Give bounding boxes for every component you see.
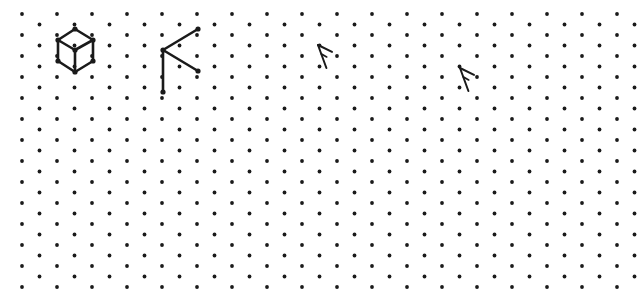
grid-dot xyxy=(598,128,602,132)
grid-dot xyxy=(633,86,637,90)
grid-dot xyxy=(440,243,444,247)
grid-dot xyxy=(248,254,252,258)
grid-dot xyxy=(405,138,409,142)
grid-dot xyxy=(38,254,42,258)
cursor-layer xyxy=(318,45,474,91)
grid-dot xyxy=(300,201,304,205)
grid-dot xyxy=(475,201,479,205)
grid-dot xyxy=(388,86,392,90)
partial-cube-sketch-vertex-upper-end[interactable] xyxy=(195,26,200,31)
grid-dot xyxy=(388,44,392,48)
grid-dot xyxy=(108,275,112,279)
grid-dot xyxy=(73,191,77,195)
drawing-canvas[interactable] xyxy=(0,0,642,305)
grid-dot xyxy=(598,44,602,48)
grid-dot xyxy=(353,212,357,216)
grid-dot xyxy=(265,159,269,163)
grid-dot xyxy=(405,33,409,37)
isometric-cube-vertex-lower-right[interactable] xyxy=(90,58,95,63)
grid-dot xyxy=(20,54,24,58)
grid-dot xyxy=(370,54,374,58)
grid-dot xyxy=(265,117,269,121)
grid-dot xyxy=(563,128,567,132)
grid-dot xyxy=(545,54,549,58)
isometric-cube-vertex-top[interactable] xyxy=(72,26,77,31)
grid-dot xyxy=(423,23,427,27)
grid-dot xyxy=(55,12,59,16)
grid-dot xyxy=(510,138,514,142)
grid-dot xyxy=(300,285,304,289)
grid-dot xyxy=(633,107,637,111)
partial-cube-sketch[interactable] xyxy=(160,26,200,94)
isometric-cube-vertex-center[interactable] xyxy=(72,47,77,52)
grid-dot xyxy=(615,243,619,247)
grid-dot xyxy=(265,285,269,289)
isometric-cube-vertex-upper-right[interactable] xyxy=(90,37,95,42)
grid-dot xyxy=(230,33,234,37)
grid-dot xyxy=(38,44,42,48)
grid-dot xyxy=(143,86,147,90)
grid-dot xyxy=(20,138,24,142)
grid-dot xyxy=(318,107,322,111)
isometric-cube-vertex-lower-left[interactable] xyxy=(55,58,60,63)
grid-dot xyxy=(265,96,269,100)
grid-dot xyxy=(20,285,24,289)
grid-dot xyxy=(545,180,549,184)
grid-dot xyxy=(405,264,409,268)
grid-dot xyxy=(265,54,269,58)
grid-dot xyxy=(38,65,42,69)
isometric-cube-vertex-upper-left[interactable] xyxy=(55,37,60,42)
drawing-layer[interactable] xyxy=(55,26,200,94)
partial-cube-sketch-vertex-lower-end[interactable] xyxy=(195,68,200,73)
grid-dot xyxy=(195,222,199,226)
grid-dot xyxy=(510,33,514,37)
grid-dot xyxy=(283,44,287,48)
isometric-dot-paper-surface[interactable] xyxy=(0,0,642,305)
grid-dot xyxy=(510,285,514,289)
grid-dot xyxy=(510,243,514,247)
grid-dot xyxy=(248,86,252,90)
grid-dot xyxy=(318,23,322,27)
isometric-cube[interactable] xyxy=(55,26,95,74)
grid-dot xyxy=(143,275,147,279)
grid-dot xyxy=(73,107,77,111)
cursor-caret-1 xyxy=(318,45,332,68)
partial-cube-sketch-vertex-apex[interactable] xyxy=(160,47,165,52)
grid-dot xyxy=(598,23,602,27)
isometric-cube-vertex-bottom[interactable] xyxy=(72,69,77,74)
isometric-cube-edge[interactable] xyxy=(58,29,75,40)
grid-dot xyxy=(633,44,637,48)
grid-dot xyxy=(178,170,182,174)
grid-dot xyxy=(510,75,514,79)
grid-dot xyxy=(598,254,602,258)
partial-cube-sketch-vertex-vertical-end[interactable] xyxy=(160,89,165,94)
grid-dot xyxy=(300,159,304,163)
grid-dot xyxy=(143,191,147,195)
isometric-cube-edge[interactable] xyxy=(75,61,93,72)
grid-dot xyxy=(283,23,287,27)
grid-dot xyxy=(353,191,357,195)
grid-dot xyxy=(580,264,584,268)
grid-dot xyxy=(388,65,392,69)
grid-dot xyxy=(230,12,234,16)
isometric-cube-edge[interactable] xyxy=(58,61,75,72)
grid-dot xyxy=(335,159,339,163)
grid-dot xyxy=(370,285,374,289)
grid-dot xyxy=(405,222,409,226)
grid-dot xyxy=(73,23,77,27)
grid-dot xyxy=(90,201,94,205)
grid-dot xyxy=(90,180,94,184)
grid-dot xyxy=(213,170,217,174)
grid-dot xyxy=(265,243,269,247)
grid-dot xyxy=(125,33,129,37)
isometric-cube-edge[interactable] xyxy=(75,40,93,50)
grid-dot xyxy=(160,33,164,37)
isometric-cube-edge[interactable] xyxy=(58,40,75,50)
grid-dot xyxy=(475,12,479,16)
grid-dot xyxy=(580,201,584,205)
grid-dot xyxy=(90,138,94,142)
grid-dot xyxy=(213,254,217,258)
grid-dot xyxy=(370,12,374,16)
grid-dot xyxy=(440,201,444,205)
grid-dot xyxy=(20,243,24,247)
